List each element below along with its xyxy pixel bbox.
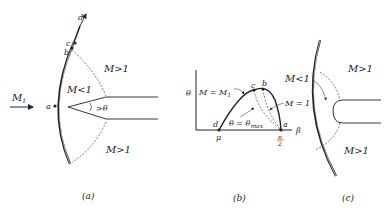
- curve-label: M = M1: [198, 88, 231, 98]
- point-c-label: c: [251, 81, 256, 90]
- theta-max-label: θ = θmax: [229, 119, 264, 129]
- sonic-line-lower: [72, 122, 106, 162]
- region-supersonic-lower: M>1: [105, 144, 131, 155]
- bow-shock-curve: [58, 42, 74, 164]
- y-axis-label: θ: [186, 89, 191, 98]
- point-a-label: a: [283, 120, 288, 129]
- point-a-dot: [53, 104, 56, 107]
- pi-tick-numerator: π: [277, 133, 283, 140]
- panel-c: M<1 M>1 M>1 (c): [284, 40, 381, 203]
- point-b-label: b: [262, 79, 267, 88]
- point-d-label: d: [213, 120, 218, 129]
- freestream-mach-label: M1: [11, 92, 26, 104]
- wedge-angle-arc: [90, 103, 92, 111]
- region-supersonic-upper: M>1: [103, 63, 129, 74]
- region-supersonic-upper: M>1: [347, 63, 373, 74]
- point-d-label: d: [78, 13, 83, 22]
- point-c-label: c: [66, 39, 71, 48]
- point-b-dot: [70, 46, 73, 49]
- region-subsonic: M<1: [284, 73, 310, 84]
- mach-angle-tick: μ: [216, 133, 221, 142]
- wedge-body: [68, 97, 158, 119]
- wedge-angle-label: >θ: [96, 104, 108, 113]
- panel-b: θ β d c b a μ π 2 M = M1 θ = θmax M = 1 …: [186, 70, 310, 203]
- caption-b: (b): [233, 193, 246, 203]
- panel-a: M1 a b c d >θ M>1 M<1 M>1 (a): [10, 13, 158, 201]
- point-b-label: b: [64, 48, 69, 57]
- caption-c: (c): [342, 193, 355, 203]
- pi-tick-denominator: 2: [277, 140, 282, 147]
- caption-a: (a): [82, 191, 95, 201]
- region-supersonic-lower: M>1: [343, 145, 369, 156]
- point-c-dot: [73, 41, 76, 44]
- point-a-label: a: [46, 102, 51, 111]
- blunt-body: [333, 100, 381, 123]
- figure-canvas: M1 a b c d >θ M>1 M<1 M>1 (a) θ β: [0, 0, 391, 215]
- sonic-line-upper: [320, 72, 340, 100]
- sonic-label: M = 1: [284, 99, 310, 108]
- detached-shock-curve: [313, 40, 336, 176]
- x-axis-label: β: [295, 126, 301, 135]
- region-subsonic: M<1: [66, 84, 92, 95]
